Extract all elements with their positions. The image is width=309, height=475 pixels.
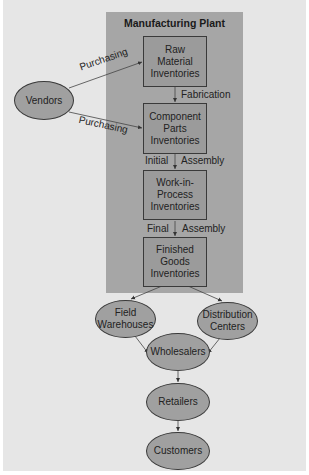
initial-label: Initial	[145, 155, 168, 166]
assembly-label-2: Assembly	[182, 223, 225, 234]
wholesalers-node: Wholesalers	[146, 333, 210, 371]
final-label: Final	[147, 223, 169, 234]
finished-goods-inventories-box: Finished Goods Inventories	[143, 237, 207, 287]
field-warehouses-node: Field Warehouses	[95, 300, 156, 338]
customers-node: Customers	[146, 432, 210, 470]
distribution-centers-node: Distribution Centers	[197, 302, 258, 340]
work-in-process-inventories-box: Work-in- Process Inventories	[143, 170, 207, 220]
fabrication-label: Fabrication	[181, 89, 230, 100]
retailers-node: Retailers	[146, 383, 210, 421]
component-parts-inventories-box: Component Parts Inventories	[143, 103, 207, 154]
raw-material-inventories-box: Raw Material Inventories	[143, 36, 207, 87]
assembly-label-1: Assembly	[181, 155, 224, 166]
vendors-node: Vendors	[14, 81, 74, 120]
